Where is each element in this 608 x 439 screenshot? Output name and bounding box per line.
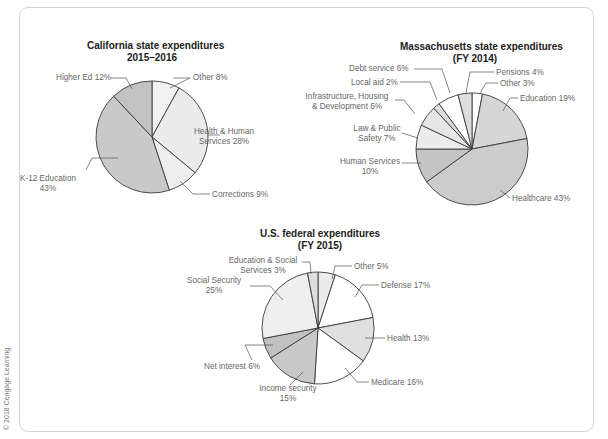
slice-label-local-aid: Local aid 2% <box>351 78 398 88</box>
slice-label-human-services: Human Services10% <box>310 157 430 177</box>
slice-label-defense: Defense 17% <box>381 281 430 291</box>
slice-label-income-security: Income security15% <box>228 384 348 404</box>
title-line: (FY 2015) <box>250 240 390 252</box>
slice-label-healthcare: Healthcare 43% <box>512 194 570 204</box>
california-chart-title: California state expenditures 2015–2016 <box>87 40 217 64</box>
slice-label-medicare: Medicare 16% <box>371 378 423 388</box>
slice-label-law-public-safety: Law & PublicSafety 7% <box>317 124 437 144</box>
title-line: Massachusetts state expenditures <box>400 41 550 53</box>
leader-line <box>170 78 190 88</box>
slice-label-education: Education 19% <box>520 94 575 104</box>
title-line: U.S. federal expenditures <box>250 228 390 240</box>
slice-label-other: Other 3% <box>500 79 535 89</box>
slice-label-debt-service: Debt service 6% <box>349 64 409 74</box>
slice-label-education-social-services: Education & SocialServices 3% <box>203 256 323 276</box>
slice-label-social-security: Social Security25% <box>154 276 274 296</box>
leader-line <box>480 83 498 93</box>
title-line: 2015–2016 <box>87 52 217 64</box>
pie-charts-canvas <box>0 0 608 439</box>
slice-label-health-human-services: Health & HumanServices 28% <box>164 127 284 147</box>
slice-label-higher-ed: Higher Ed 12% <box>56 73 111 83</box>
copyright-notice: © 2018 Cengage Learning <box>3 348 10 430</box>
leader-line <box>466 72 494 93</box>
slice-label-other: Other 5% <box>354 262 389 272</box>
slice-label-infrastructure-housing-development: Infrastructure, Housing& Development 6% <box>287 92 407 112</box>
leader-line <box>414 69 450 93</box>
massachusetts-chart-title: Massachusetts state expenditures (FY 201… <box>400 41 550 65</box>
slice-label-k-12-education: K-12 Education43% <box>0 174 108 194</box>
title-line: California state expenditures <box>87 40 217 52</box>
title-line: (FY 2014) <box>400 53 550 65</box>
slice-label-corrections: Corrections 9% <box>212 190 268 200</box>
slice-label-other: Other 8% <box>193 73 228 83</box>
slice-label-pensions: Pensions 4% <box>496 68 544 78</box>
slice-label-health: Health 13% <box>387 334 429 344</box>
slice-label-net-interest: Net interest 6% <box>204 362 260 372</box>
federal-chart-title: U.S. federal expenditures (FY 2015) <box>250 228 390 252</box>
